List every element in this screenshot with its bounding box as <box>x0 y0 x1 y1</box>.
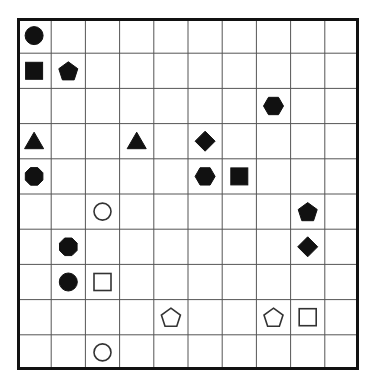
grid-cell[interactable] <box>325 264 359 299</box>
grid-cell[interactable] <box>291 18 325 53</box>
black-square-icon <box>231 168 248 185</box>
grid-cell[interactable] <box>188 53 222 88</box>
grid-cell[interactable] <box>325 53 359 88</box>
grid-cell[interactable] <box>256 18 290 53</box>
grid-cell[interactable] <box>85 88 119 123</box>
hollow-square-icon <box>94 274 111 291</box>
grid-cell[interactable] <box>51 335 85 370</box>
grid-cell[interactable] <box>154 159 188 194</box>
grid-cell[interactable] <box>120 53 154 88</box>
grid-cell[interactable] <box>120 335 154 370</box>
grid-cell[interactable] <box>154 53 188 88</box>
grid-cell[interactable] <box>222 335 256 370</box>
grid-cell[interactable] <box>325 18 359 53</box>
grid-cell[interactable] <box>222 229 256 264</box>
grid-cell[interactable] <box>85 229 119 264</box>
grid-cell[interactable] <box>188 18 222 53</box>
grid-cell[interactable] <box>325 124 359 159</box>
hollow-circle-icon <box>94 203 111 220</box>
grid-cell[interactable] <box>120 300 154 335</box>
grid-cell[interactable] <box>291 159 325 194</box>
grid-cell[interactable] <box>154 88 188 123</box>
grid-cell[interactable] <box>188 300 222 335</box>
grid-cell[interactable] <box>325 229 359 264</box>
grid-cell[interactable] <box>120 18 154 53</box>
grid-cell[interactable] <box>325 194 359 229</box>
grid-cell[interactable] <box>222 53 256 88</box>
grid-cell[interactable] <box>85 18 119 53</box>
grid-cell[interactable] <box>291 53 325 88</box>
grid-cell[interactable] <box>256 53 290 88</box>
grid-cell[interactable] <box>325 300 359 335</box>
grid-canvas <box>17 18 359 370</box>
black-circle-icon <box>25 27 43 45</box>
grid-cell[interactable] <box>222 124 256 159</box>
grid-cell[interactable] <box>120 88 154 123</box>
grid-cell[interactable] <box>17 194 51 229</box>
grid-cell[interactable] <box>85 159 119 194</box>
grid-cell[interactable] <box>188 335 222 370</box>
grid-cell[interactable] <box>222 264 256 299</box>
hollow-circle-icon <box>94 344 111 361</box>
grid-cell[interactable] <box>154 264 188 299</box>
grid-cell[interactable] <box>120 159 154 194</box>
black-octagon-icon <box>60 238 78 256</box>
grid-cell[interactable] <box>17 229 51 264</box>
grid-cell[interactable] <box>154 335 188 370</box>
grid-cell[interactable] <box>325 88 359 123</box>
grid-cell[interactable] <box>120 264 154 299</box>
black-circle-icon <box>59 273 77 291</box>
grid-cell[interactable] <box>85 124 119 159</box>
grid-cell[interactable] <box>120 194 154 229</box>
grid-cell[interactable] <box>325 335 359 370</box>
grid-cell[interactable] <box>291 124 325 159</box>
grid-cell[interactable] <box>154 229 188 264</box>
grid-cell[interactable] <box>256 264 290 299</box>
grid-cell[interactable] <box>154 18 188 53</box>
grid-cell[interactable] <box>256 124 290 159</box>
grid-cell[interactable] <box>17 88 51 123</box>
grid-cell[interactable] <box>51 124 85 159</box>
grid-cell[interactable] <box>188 194 222 229</box>
grid-cell[interactable] <box>51 88 85 123</box>
grid-cell[interactable] <box>51 194 85 229</box>
grid-cell[interactable] <box>222 194 256 229</box>
black-hexagon-icon <box>264 97 284 114</box>
grid-cell[interactable] <box>222 300 256 335</box>
grid-cell[interactable] <box>256 229 290 264</box>
grid-cell[interactable] <box>51 18 85 53</box>
grid-cell[interactable] <box>17 335 51 370</box>
grid-cell[interactable] <box>85 53 119 88</box>
grid-cell[interactable] <box>256 159 290 194</box>
black-square-icon <box>26 62 43 79</box>
hollow-square-icon <box>299 309 316 326</box>
grid-cell[interactable] <box>325 159 359 194</box>
grid-cell[interactable] <box>222 88 256 123</box>
grid-cell[interactable] <box>256 335 290 370</box>
grid-cell[interactable] <box>85 300 119 335</box>
grid-cell[interactable] <box>154 194 188 229</box>
grid-cell[interactable] <box>188 229 222 264</box>
puzzle-grid <box>17 18 359 370</box>
grid-cell[interactable] <box>17 300 51 335</box>
grid-cell[interactable] <box>51 159 85 194</box>
grid-cell[interactable] <box>120 229 154 264</box>
grid-cell[interactable] <box>17 264 51 299</box>
grid-cell[interactable] <box>291 88 325 123</box>
grid-cell[interactable] <box>51 300 85 335</box>
grid-cell[interactable] <box>188 264 222 299</box>
grid-cell[interactable] <box>291 264 325 299</box>
grid-cell[interactable] <box>188 88 222 123</box>
black-hexagon-icon <box>195 168 215 185</box>
grid-cell[interactable] <box>222 18 256 53</box>
grid-cell[interactable] <box>291 335 325 370</box>
grid-cell[interactable] <box>256 194 290 229</box>
grid-cell[interactable] <box>154 124 188 159</box>
black-octagon-icon <box>25 168 43 186</box>
